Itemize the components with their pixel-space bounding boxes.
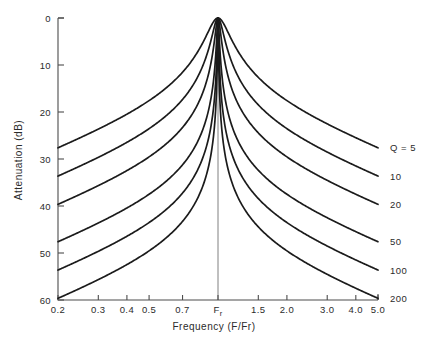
x-tick-label: 0.3	[91, 304, 105, 315]
series-label-20: 20	[390, 199, 402, 210]
series-label-50: 50	[390, 236, 402, 247]
y-tick-label: 60	[40, 295, 51, 306]
series-label-10: 10	[390, 171, 402, 182]
y-tick-label: 30	[40, 154, 51, 165]
x-tick-label: 3.0	[320, 304, 334, 315]
y-tick-label: 20	[40, 107, 51, 118]
y-axis-title: Attenuation (dB)	[13, 120, 24, 200]
x-tick-label: 0.2	[51, 304, 65, 315]
series-label-5: Q = 5	[390, 142, 416, 153]
y-tick-label: 40	[40, 201, 51, 212]
chart-svg: 0.20.30.40.50.7Fr1.52.03.04.05.0 0102030…	[0, 0, 428, 340]
x-tick-label: 0.7	[175, 304, 189, 315]
x-tick-label: 4.0	[349, 304, 363, 315]
x-tick-label: 1.5	[251, 304, 265, 315]
x-tick-label: 2.0	[280, 304, 294, 315]
x-tick-label: 0.4	[120, 304, 134, 315]
attenuation-vs-frequency-chart: 0.20.30.40.50.7Fr1.52.03.04.05.0 0102030…	[0, 0, 428, 340]
series-label-200: 200	[390, 293, 407, 304]
y-tick-label: 50	[40, 248, 51, 259]
y-tick-label: 0	[45, 13, 51, 24]
x-tick-label: 0.5	[142, 304, 156, 315]
series-label-100: 100	[390, 265, 407, 276]
y-tick-label: 10	[40, 60, 51, 71]
x-axis-title: Frequency (F/Fr)	[172, 321, 255, 332]
x-tick-label: 5.0	[371, 304, 385, 315]
